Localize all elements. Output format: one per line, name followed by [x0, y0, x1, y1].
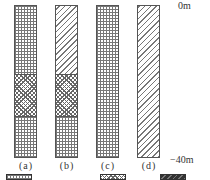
soil-column-a — [14, 5, 37, 158]
layer-grid — [15, 6, 36, 74]
layer-grid — [15, 116, 36, 157]
column-label-a: (a) — [11, 160, 41, 171]
depth-top-label: 0m — [178, 0, 191, 11]
legend-swatch-diagonal-hatch — [160, 174, 186, 180]
legend — [0, 174, 210, 180]
depth-bottom-label: −40m — [170, 154, 193, 165]
soil-column-b — [55, 5, 78, 158]
legend-swatch-grid — [6, 174, 32, 180]
legend-swatch-cross-hatch — [100, 174, 126, 180]
column-label-b: (b) — [52, 160, 82, 171]
soil-column-d — [137, 5, 160, 158]
layer-diagonal-hatch — [56, 6, 77, 74]
layer-grid — [97, 6, 118, 157]
column-label-d: (d) — [134, 160, 164, 171]
layer-grid — [56, 116, 77, 157]
layer-cross-hatch — [56, 74, 77, 117]
layer-cross-hatch — [15, 74, 36, 117]
layer-diagonal-hatch — [138, 6, 159, 157]
column-label-c: (c) — [93, 160, 123, 171]
soil-column-c — [96, 5, 119, 158]
